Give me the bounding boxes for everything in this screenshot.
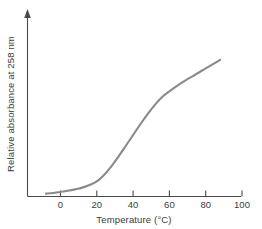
x-tick-label-60: 60 <box>164 199 175 210</box>
y-axis-arrow-icon <box>24 9 31 18</box>
melting-curve-chart: 0 20 40 60 80 100 Temperature (°C) Relat… <box>0 0 262 229</box>
x-axis-title: Temperature (°C) <box>96 214 171 225</box>
x-tick-label-100: 100 <box>234 199 250 210</box>
data-series-melting-curve <box>46 60 220 194</box>
chart-figure: 0 20 40 60 80 100 Temperature (°C) Relat… <box>0 0 262 229</box>
y-axis-title: Relative absorbance at 258 nm <box>5 36 16 172</box>
x-tick-label-0: 0 <box>58 199 63 210</box>
x-tick-label-20: 20 <box>92 199 103 210</box>
x-tick-label-80: 80 <box>200 199 211 210</box>
x-tick-label-40: 40 <box>128 199 139 210</box>
